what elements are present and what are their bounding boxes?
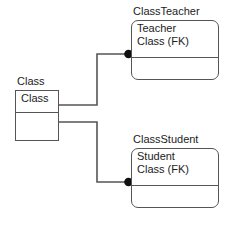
entity-caption-classstudent: ClassStudent [133,133,198,145]
entity-caption-classteacher: ClassTeacher [133,5,200,17]
attribute-row: Student [137,150,218,163]
entity-attributes-classstudent: Student Class (FK) [132,149,218,186]
entity-methods-classstudent [132,186,218,207]
relationship-line-class-to-classstudent[interactable] [59,122,128,182]
entity-box-classstudent[interactable]: Student Class (FK) [131,148,219,208]
attribute-row: Class [21,92,58,105]
attribute-row: Teacher [137,22,218,35]
er-diagram-canvas: Class Class ClassTeacher Teacher Class (… [0,0,230,226]
entity-methods-classteacher [132,58,218,79]
relationship-line-class-to-classteacher[interactable] [59,54,128,105]
attribute-row: Class (FK) [137,35,218,48]
entity-box-class[interactable]: Class [15,90,59,141]
entity-box-classteacher[interactable]: Teacher Class (FK) [131,20,219,80]
entity-methods-class [16,113,58,140]
attribute-row: Class (FK) [137,163,218,176]
entity-caption-class: Class [17,75,45,87]
entity-attributes-class: Class [16,91,58,113]
entity-attributes-classteacher: Teacher Class (FK) [132,21,218,58]
